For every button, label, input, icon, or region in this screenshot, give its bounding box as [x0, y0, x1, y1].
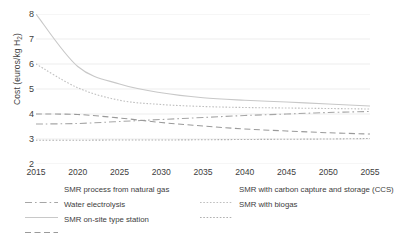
legend-swatch-line	[25, 220, 58, 223]
legend-label: SMR with biogas	[239, 200, 298, 209]
legend-label: SMR process from natural gas	[64, 185, 169, 194]
y-axis-tick: 8	[20, 9, 34, 19]
y-axis-tick: 3	[20, 134, 34, 144]
series-line-0	[36, 112, 370, 125]
series-line-1	[36, 64, 370, 109]
x-axis-tick: 2035	[193, 167, 212, 177]
x-axis-tick-labels: 201520202025203020352040204520502055	[36, 167, 370, 181]
x-axis-tick: 2015	[26, 167, 45, 177]
legend-label: SMR with carbon capture and storage (CCS…	[239, 185, 394, 194]
y-axis-tick-labels: 8765432	[18, 14, 34, 164]
series-lines	[36, 14, 370, 164]
legend-swatch-line	[200, 205, 233, 208]
x-axis-tick: 2050	[319, 167, 338, 177]
x-axis-tick: 2025	[110, 167, 129, 177]
y-axis-tick: 5	[20, 84, 34, 94]
x-axis-tick: 2030	[152, 167, 171, 177]
plot-area	[36, 14, 370, 164]
legend-label: Water electrolysis	[64, 200, 125, 209]
x-axis-tick: 2045	[277, 167, 296, 177]
x-axis-tick: 2040	[235, 167, 254, 177]
legend-swatch-line	[200, 190, 233, 193]
series-line-2	[36, 14, 370, 106]
chart-legend: SMR process from natural gasSMR with car…	[0, 184, 376, 228]
y-axis-tick: 6	[20, 59, 34, 69]
y-axis-tick: 4	[20, 109, 34, 119]
legend-swatch-line	[25, 205, 58, 208]
legend-label: SMR on-site type station	[64, 215, 149, 224]
legend-swatch-line	[25, 190, 58, 193]
x-axis-tick: 2055	[360, 167, 379, 177]
y-axis-tick: 7	[20, 34, 34, 44]
x-axis-tick: 2020	[68, 167, 87, 177]
